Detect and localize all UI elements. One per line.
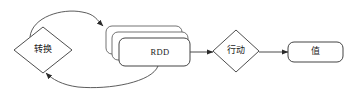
- node-action-label: 行动: [212, 46, 260, 55]
- node-transformation-label: 转换: [14, 45, 72, 54]
- diagram-canvas: 转换 RDD 行动 值: [0, 0, 360, 100]
- node-rdd-label: RDD: [130, 48, 190, 57]
- node-value-label: 值: [288, 47, 343, 56]
- edge-rdd-to-transformation: [46, 66, 158, 88]
